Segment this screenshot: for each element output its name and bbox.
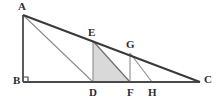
segment-ad bbox=[23, 15, 93, 82]
figure-canvas bbox=[0, 0, 219, 101]
vertex-label-h: H bbox=[148, 87, 157, 98]
vertex-label-e: E bbox=[88, 27, 95, 38]
vertex-label-a: A bbox=[18, 1, 26, 12]
vertex-label-f: F bbox=[127, 87, 134, 98]
vertex-label-g: G bbox=[126, 39, 135, 50]
vertex-label-d: D bbox=[89, 87, 97, 98]
vertex-label-b: B bbox=[13, 75, 20, 86]
vertex-label-c: C bbox=[204, 74, 212, 85]
geometry-figure: A B C D E F G H bbox=[0, 0, 219, 101]
